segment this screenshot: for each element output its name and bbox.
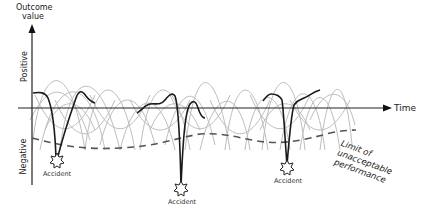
accident-starburst-icon	[280, 160, 294, 175]
y-axis-title-line1: Outcome	[16, 3, 50, 12]
x-axis-arrow-icon	[383, 105, 392, 112]
accident-starburst-icon	[174, 181, 188, 196]
y-axis-arrow-icon	[29, 24, 36, 33]
y-axis-title-line2: value	[16, 12, 50, 21]
accident-label-3: Accident	[274, 177, 302, 185]
accident-markers	[50, 153, 294, 196]
x-axis-title: Time	[394, 104, 416, 113]
negative-label: Negative	[19, 135, 28, 179]
accident-starburst-icon	[50, 153, 64, 168]
y-axis-title: Outcome value	[16, 3, 50, 21]
axes	[18, 32, 387, 185]
accident-label-1: Accident	[43, 170, 71, 178]
accident-label-2: Accident	[168, 198, 196, 206]
positive-label: Positive	[20, 47, 29, 87]
diagram-canvas	[0, 0, 427, 215]
